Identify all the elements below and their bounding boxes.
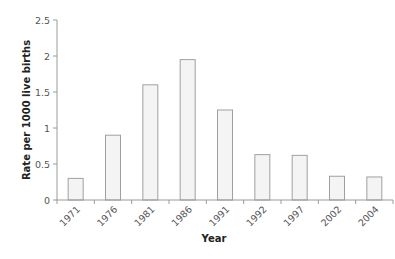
bar-1997 — [292, 155, 307, 200]
bar-1981 — [143, 85, 158, 200]
x-tick-label: 1981 — [132, 204, 157, 229]
bar-1986 — [180, 60, 195, 200]
bar-1991 — [218, 110, 233, 200]
y-tick-label: 0.5 — [35, 159, 50, 170]
y-axis-label: Rate per 1000 live births — [21, 40, 32, 180]
bar-1971 — [68, 178, 83, 200]
bar-1992 — [255, 155, 270, 200]
x-axis-label: Year — [201, 233, 227, 244]
bar-chart: 00.511.522.5 197119761981198619911992199… — [0, 0, 395, 259]
y-tick-label: 1.5 — [35, 87, 50, 98]
x-tick-label: 1976 — [95, 204, 120, 229]
y-tick-label: 2 — [44, 51, 50, 62]
x-tick-label: 2002 — [319, 204, 344, 229]
x-tick-label: 1997 — [281, 204, 306, 229]
y-tick-label: 0 — [44, 195, 50, 206]
bar-1976 — [106, 135, 121, 200]
y-tick-label: 2.5 — [35, 15, 50, 26]
x-tick-label: 1992 — [244, 204, 269, 229]
x-axis: 197119761981198619911992199720022004 — [57, 200, 393, 229]
bar-2002 — [330, 176, 345, 200]
bar-2004 — [367, 177, 382, 200]
x-tick-label: 1971 — [57, 204, 82, 229]
y-tick-label: 1 — [44, 123, 50, 134]
y-axis: 00.511.522.5 — [35, 15, 57, 206]
x-tick-label: 2004 — [356, 204, 381, 229]
bars — [68, 60, 382, 200]
x-tick-label: 1991 — [207, 204, 232, 229]
x-tick-label: 1986 — [169, 204, 194, 229]
